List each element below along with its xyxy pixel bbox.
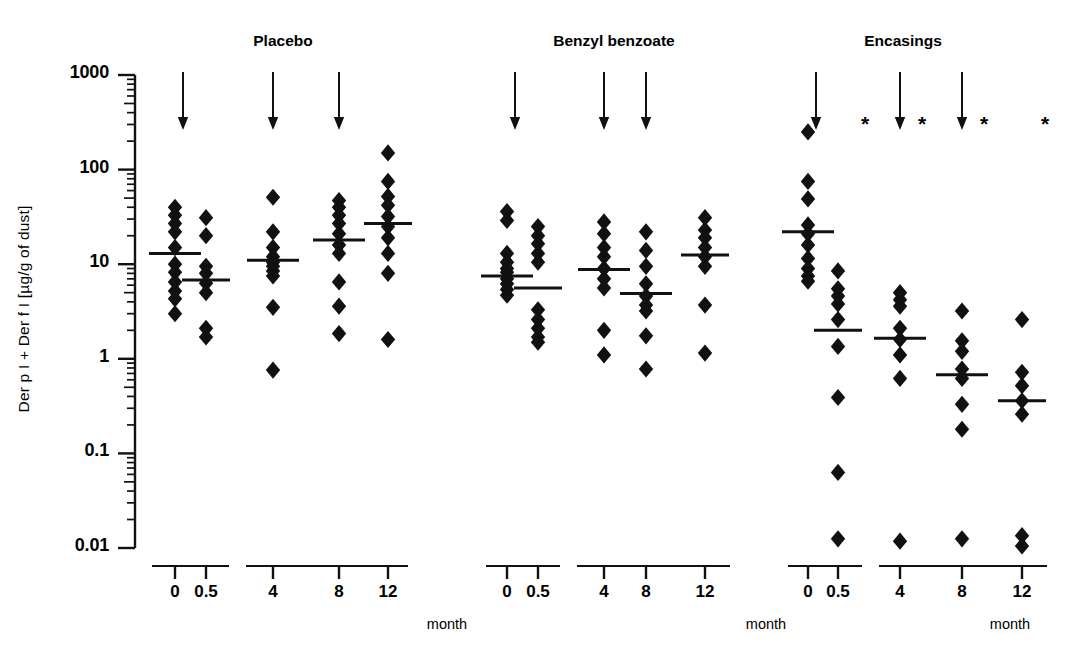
x-axis-unit-label: month (950, 616, 1070, 632)
group-title-encasings: Encasings (773, 32, 1033, 50)
treatment-arrows (178, 72, 344, 130)
scatter-plot-figure: 10001001010.10.01Der p I + Der f I [µg/g… (0, 0, 1073, 660)
arrow-head (599, 117, 609, 130)
arrow-head (510, 117, 520, 130)
data-point (1015, 377, 1029, 394)
y-axis-title: Der p I + Der f I [µg/g of dust] (15, 119, 33, 499)
data-point (639, 223, 653, 240)
treatment-arrows (510, 72, 651, 130)
data-point (1015, 537, 1029, 554)
data-point (531, 254, 545, 271)
x-axis-tick-label: 12 (982, 582, 1062, 602)
data-point (955, 302, 969, 319)
arrow-head (641, 117, 651, 130)
data-point (168, 305, 182, 322)
data-point (381, 265, 395, 282)
group-title-benzyl-benzoate: Benzyl benzoate (484, 32, 744, 50)
data-point (1015, 311, 1029, 328)
data-point (955, 530, 969, 547)
plot-canvas (0, 0, 1073, 660)
data-point (955, 421, 969, 438)
x-axis-tick-label: 12 (348, 582, 428, 602)
data-point (955, 370, 969, 387)
data-point (381, 173, 395, 190)
y-axis (118, 75, 135, 548)
arrow-head (957, 117, 967, 130)
arrow-head (811, 117, 821, 130)
x-axis-tick-label: 12 (665, 582, 745, 602)
data-point (266, 299, 280, 316)
data-point (199, 227, 213, 244)
data-point (893, 370, 907, 387)
data-point (597, 346, 611, 363)
x-axis-group-0 (152, 566, 408, 579)
x-axis-group-2 (788, 566, 1047, 579)
data-point (639, 360, 653, 377)
significance-star: * (910, 113, 934, 134)
data-point (831, 530, 845, 547)
arrow-head (895, 117, 905, 130)
data-point (199, 328, 213, 345)
data-point (955, 343, 969, 360)
data-point (381, 245, 395, 262)
data-point (831, 389, 845, 406)
treatment-arrows (811, 72, 967, 130)
group-title-placebo: Placebo (153, 32, 413, 50)
data-point (266, 361, 280, 378)
data-point (893, 533, 907, 550)
data-point (1015, 406, 1029, 423)
x-axis-unit-label: month (387, 616, 507, 632)
data-point (639, 327, 653, 344)
data-point (381, 144, 395, 161)
median-lines (149, 223, 1046, 400)
significance-star: * (972, 113, 996, 134)
data-point (332, 325, 346, 342)
data-point (199, 284, 213, 301)
data-point (831, 311, 845, 328)
data-point (955, 396, 969, 413)
data-point (266, 189, 280, 206)
data-point (199, 209, 213, 226)
arrow-head (268, 117, 278, 130)
data-point (332, 273, 346, 290)
significance-star: * (853, 113, 877, 134)
data-point (500, 212, 514, 229)
data-point (639, 242, 653, 259)
data-point (332, 298, 346, 315)
data-point (831, 262, 845, 279)
x-axis-unit-label: month (706, 616, 826, 632)
data-point (831, 464, 845, 481)
arrow-head (334, 117, 344, 130)
data-point (639, 258, 653, 275)
arrow-head (178, 117, 188, 130)
data-point (698, 296, 712, 313)
data-point (801, 123, 815, 140)
x-axis-group-1 (486, 566, 730, 579)
data-point (831, 338, 845, 355)
data-point (801, 173, 815, 190)
data-point (597, 322, 611, 339)
data-point (893, 346, 907, 363)
data-point (801, 190, 815, 207)
y-axis-tick-label-1000: 1000 (0, 62, 109, 83)
data-point (266, 223, 280, 240)
data-point (698, 344, 712, 361)
data-point (597, 279, 611, 296)
data-point (381, 331, 395, 348)
y-axis-tick-label-0p01: 0.01 (0, 535, 109, 556)
data-point (381, 229, 395, 246)
significance-star: * (1033, 113, 1057, 134)
data-point (698, 258, 712, 275)
